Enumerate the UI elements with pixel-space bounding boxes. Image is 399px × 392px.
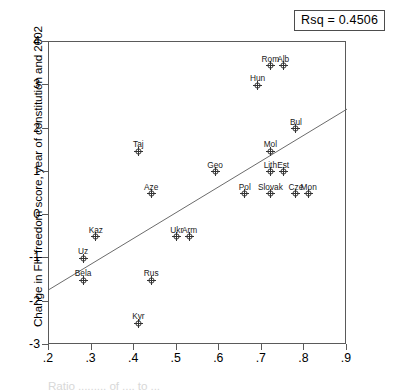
- data-point-label: Bul: [290, 118, 302, 127]
- data-point-label: Kyr: [132, 312, 144, 321]
- data-point-label: Lith: [264, 161, 277, 170]
- data-point-label: Mol: [264, 140, 277, 149]
- y-axis-tick-label: 0: [0, 208, 40, 220]
- y-axis-tick-label: 3: [0, 78, 40, 90]
- x-axis-tick-label: .6: [203, 352, 233, 365]
- x-axis-tick-label: .9: [331, 352, 361, 365]
- data-point-label: Kaz: [89, 226, 103, 235]
- y-axis-tick-label: -3: [0, 338, 40, 350]
- data-point-label: Slovak: [258, 183, 283, 192]
- x-axis-title: Ratio ......... of .... to ...: [48, 379, 160, 392]
- data-point-label: Aze: [144, 183, 158, 192]
- data-point-label: Uz: [78, 247, 88, 256]
- trendline: [49, 42, 347, 345]
- y-axis-tick-label: 1: [0, 165, 40, 177]
- data-point-label: Arm: [182, 226, 197, 235]
- x-axis-tick-label: .7: [246, 352, 276, 365]
- y-axis-tick-label: 2: [0, 122, 40, 134]
- data-point-label: Hun: [250, 74, 265, 83]
- data-point-label: Pol: [239, 183, 251, 192]
- rsq-annotation-box: Rsq = 0.4506: [294, 10, 385, 31]
- x-axis-tick-label: .4: [118, 352, 148, 365]
- data-point-label: Est: [277, 161, 289, 170]
- data-point-label: Alb: [277, 55, 289, 64]
- y-axis-tick-label: -2: [0, 295, 40, 307]
- plot-area: RomAlbHunBulMolTajGeoLithEstAzePolSlovak…: [48, 41, 346, 344]
- data-point-label: Bela: [75, 269, 92, 278]
- data-point-label: Rus: [144, 269, 159, 278]
- x-axis-tick-label: .8: [288, 352, 318, 365]
- rsq-annotation-label: Rsq = 0.4506: [301, 13, 378, 27]
- x-axis-tick-label: .2: [33, 352, 63, 365]
- scatter-plot-figure: Rsq = 0.4506 Change in FH freedom score,…: [0, 0, 399, 392]
- data-point-label: Geo: [207, 161, 223, 170]
- x-axis-tick-label: .3: [76, 352, 106, 365]
- x-axis-tick-label: .5: [161, 352, 191, 365]
- data-point-label: Taj: [133, 140, 144, 149]
- y-axis-tick-label: 4: [0, 35, 40, 47]
- y-axis-tick-label: -1: [0, 251, 40, 263]
- data-point-label: Mon: [301, 183, 317, 192]
- plot-inner: RomAlbHunBulMolTajGeoLithEstAzePolSlovak…: [49, 42, 345, 343]
